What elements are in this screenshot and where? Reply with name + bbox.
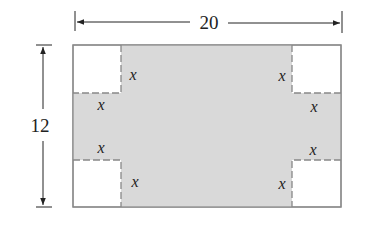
height-label: 12 — [31, 115, 50, 136]
x-label-bottom-right-top: x — [308, 141, 316, 158]
x-label-top-right-side: x — [277, 67, 285, 84]
x-label-bottom-left-top: x — [96, 139, 104, 156]
open-box-diagram: 20 12 x x x x x x x x — [0, 0, 365, 239]
width-label: 20 — [200, 12, 219, 33]
x-label-top-left-bottom: x — [96, 96, 104, 113]
x-label-bottom-right-side: x — [277, 175, 285, 192]
x-label-top-left-side: x — [128, 66, 136, 83]
x-label-bottom-left-side: x — [130, 173, 138, 190]
x-label-top-right-bottom: x — [309, 98, 317, 115]
